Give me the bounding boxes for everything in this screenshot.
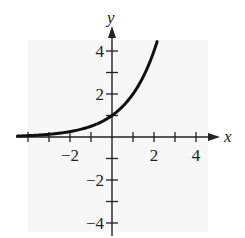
y-tick-label: 2	[96, 85, 105, 104]
y-tick-label: −2	[86, 171, 104, 190]
plot-background-panel	[28, 40, 208, 232]
x-tick-label: −2	[61, 146, 79, 165]
y-axis-label: y	[105, 8, 115, 27]
function-graph: x y −224 42−2−4	[0, 0, 245, 238]
y-axis-arrow-icon	[108, 26, 116, 38]
x-tick-label: 4	[192, 146, 201, 165]
x-tick-label: 2	[150, 146, 159, 165]
y-tick-label: 4	[96, 42, 105, 61]
x-axis-label: x	[223, 127, 232, 146]
x-axis-arrow-icon	[208, 133, 220, 141]
y-tick-label: −4	[86, 214, 105, 233]
